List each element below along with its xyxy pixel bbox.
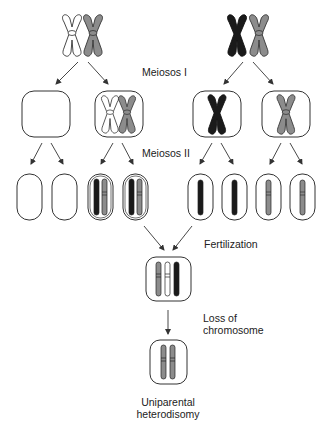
result-label-line2: heterodisomy <box>118 408 218 420</box>
fertilization-arrows <box>144 226 192 250</box>
loss-of-chromosome-label: Loss of chromosome <box>203 312 264 336</box>
gamete-1 <box>17 174 42 220</box>
black-chromatid-icon <box>129 179 134 215</box>
grey-chromatid-icon <box>161 345 166 379</box>
grey-chromatid-icon <box>156 262 161 296</box>
meiosis1-label: Meiosos I <box>142 66 187 78</box>
meiosis2-label: Meiosos II <box>142 147 190 159</box>
white-chromatid-icon <box>165 262 170 296</box>
zygote-chromatids <box>156 262 179 296</box>
black-chromatid-icon <box>198 180 203 215</box>
black-chromatid-icon <box>94 179 99 215</box>
gamete-2 <box>52 174 77 220</box>
black-chromosome-icon <box>228 15 247 57</box>
loss-label-line2: chromosome <box>203 324 264 336</box>
black-chromatid-icon <box>232 180 237 215</box>
grey-chromatid-icon <box>300 180 305 215</box>
parent-2-chromosomes <box>228 15 269 57</box>
grey-chromatid-icon <box>170 345 175 379</box>
uniparental-heterodisomy-label: Uniparental heterodisomy <box>118 396 218 420</box>
result-label-line1: Uniparental <box>118 396 218 408</box>
grey-chromatid-icon <box>266 180 271 215</box>
fertilization-label: Fertilization <box>204 238 258 250</box>
grey-chromatid-icon <box>102 179 107 215</box>
loss-label-line1: Loss of <box>203 312 264 324</box>
parent-1-chromosomes <box>63 15 103 57</box>
final-cell <box>150 340 187 384</box>
cell-1 <box>22 91 70 137</box>
meiosis1-cells <box>22 91 310 137</box>
grey-chromatid-icon <box>137 179 142 215</box>
black-chromatid-icon <box>174 262 179 296</box>
